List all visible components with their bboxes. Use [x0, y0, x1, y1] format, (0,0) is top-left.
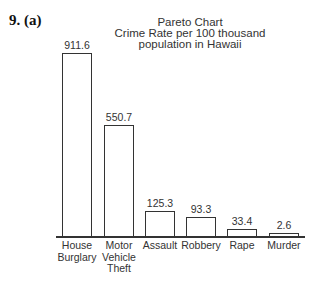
bar-value-label: 911.6 [57, 39, 97, 51]
bar-value-label: 125.3 [140, 197, 180, 209]
category-label: Assault [139, 240, 181, 252]
bar-motor-vehicle-theft [104, 125, 134, 236]
bar-value-label: 33.4 [222, 215, 262, 227]
bar-house-burglary [62, 53, 92, 236]
bar-murder [269, 233, 299, 236]
category-label: MotorVehicleTheft [98, 240, 140, 275]
bar-value-label: 93.3 [181, 203, 221, 215]
category-label: Rape [221, 240, 263, 252]
x-axis-baseline [56, 236, 305, 238]
category-label: Murder [263, 240, 305, 252]
bar-value-label: 2.6 [264, 219, 304, 231]
category-label: Robbery [180, 240, 222, 252]
bar-rape [227, 229, 257, 236]
bar-value-label: 550.7 [99, 111, 139, 123]
category-label: HouseBurglary [56, 240, 98, 263]
bar-robbery [186, 217, 216, 236]
pareto-plot-area: 911.6HouseBurglary550.7MotorVehicleTheft… [0, 0, 319, 287]
bar-assault [145, 211, 175, 236]
